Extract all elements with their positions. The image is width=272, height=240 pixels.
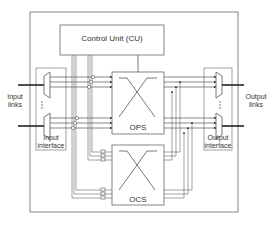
- ocs-label: OCS: [112, 196, 164, 204]
- output-mux-icon: [216, 72, 222, 139]
- ops-crossbar-icon: [119, 78, 157, 117]
- control-unit-label: Control Unit (CU): [60, 35, 164, 43]
- output-links-label: Output links: [240, 93, 272, 109]
- input-links-label: Input links: [0, 93, 30, 109]
- input-demux-icon: [44, 72, 50, 139]
- ops-label: OPS: [112, 124, 164, 132]
- ocs-crossbar-icon: [119, 151, 157, 190]
- input-interface-label: Input interface: [36, 134, 66, 150]
- output-interface-label: Output interface: [204, 134, 232, 150]
